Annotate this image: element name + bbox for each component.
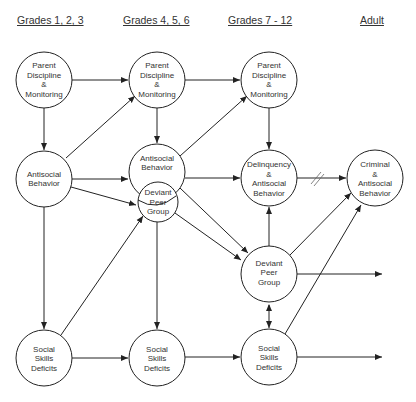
break-mark xyxy=(311,172,324,186)
label-ab2: AntisocialBehavior xyxy=(129,153,185,173)
label-pdm1: ParentDiscipline&Monitoring xyxy=(16,56,72,104)
label-dpg3: DeviantPeerGroup xyxy=(241,258,297,288)
label-ab1: AntisocialBehavior xyxy=(16,169,72,189)
label-cab4: Criminal&AntisocialBehavior xyxy=(347,155,403,203)
label-pdm3: ParentDiscipline&Monitoring xyxy=(241,56,297,104)
label-dab3: Delinquency&AntisocialBehavior xyxy=(241,155,297,203)
label-ssd3: SocialSkillsDeficits xyxy=(241,343,297,373)
label-ssd1: SocialSkillsDeficits xyxy=(16,344,72,374)
label-pdm2: ParentDiscipline&Monitoring xyxy=(129,56,185,104)
label-dpg2: DeviantPeerGroup xyxy=(138,188,178,217)
label-ssd2: SocialSkillsDeficits xyxy=(129,344,185,374)
